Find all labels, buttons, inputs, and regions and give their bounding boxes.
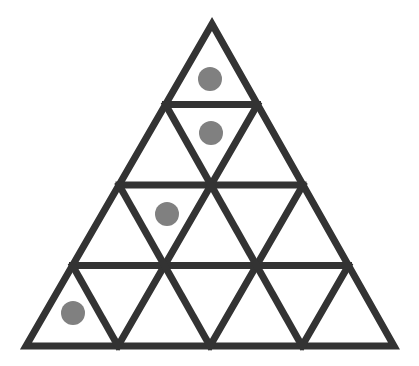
dot-row2 bbox=[199, 121, 223, 145]
figure-root bbox=[0, 0, 419, 366]
dot-row3 bbox=[155, 202, 179, 226]
dot-row4 bbox=[61, 301, 85, 325]
triangle-diagram bbox=[0, 0, 419, 366]
dot-row1 bbox=[198, 67, 222, 91]
